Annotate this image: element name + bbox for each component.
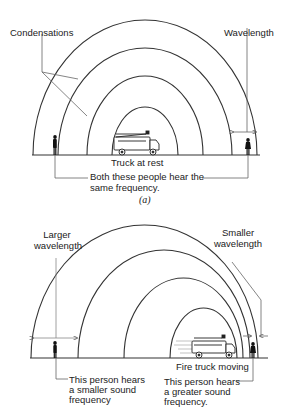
person-left-b xyxy=(53,341,57,358)
fire-truck-moving-label: Fire truck moving xyxy=(176,361,249,372)
smaller-wavelength-label-line2: wavelength xyxy=(208,238,268,249)
larger-wavelength-label-line1: Larger xyxy=(34,229,80,240)
truck-at-rest-label: Truck at rest xyxy=(111,157,163,168)
fire-truck-b xyxy=(174,335,235,358)
fire-truck-a xyxy=(114,131,159,155)
greater-frequency-label-line3: frequency. xyxy=(164,396,208,407)
person-right-a xyxy=(245,138,251,155)
wavelength-label: Wavelength xyxy=(224,27,274,38)
smaller-frequency-label-line3: frequency xyxy=(69,394,111,405)
person-left-a xyxy=(53,135,57,155)
larger-wavelength-label-line2: wavelength xyxy=(34,240,80,251)
smaller-wavelength-label-line1: Smaller xyxy=(208,227,268,238)
both-hear-label-line2: same frequency. xyxy=(90,182,160,193)
person-right-b xyxy=(250,342,256,358)
condensations-label: Condensations xyxy=(10,27,73,38)
caption-a: (a) xyxy=(139,194,151,205)
both-hear-label-line1: Both these people hear the xyxy=(90,171,204,182)
panel-a xyxy=(32,20,260,178)
wavefront-1 xyxy=(33,20,257,155)
